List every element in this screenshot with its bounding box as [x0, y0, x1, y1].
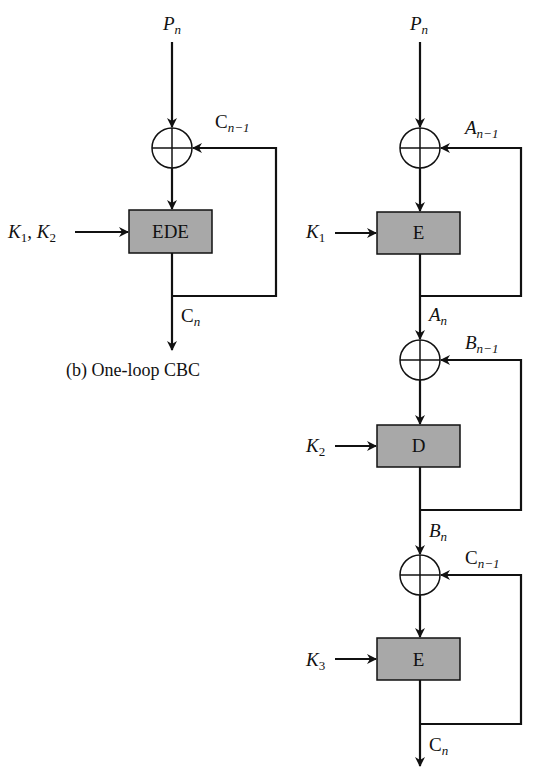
input-label: Pn [163, 14, 181, 36]
label-sub: 3 [319, 658, 326, 673]
label-base: B [465, 332, 477, 353]
label-base: C [465, 547, 478, 568]
label-base: K [8, 221, 21, 242]
label-sub: n [194, 314, 201, 329]
output-label: Bn [429, 521, 447, 543]
diagram-canvas [0, 0, 543, 783]
key-label: K1 [306, 222, 325, 244]
separator: , [27, 221, 37, 242]
xor-icon [400, 555, 440, 595]
left-diagram [75, 42, 276, 350]
label-base: K [306, 649, 319, 670]
label-base: K [306, 221, 319, 242]
label-sub: n [441, 313, 448, 328]
label-sub: n [442, 743, 449, 758]
label-sub: 1 [319, 230, 326, 245]
block-label: E [377, 650, 460, 669]
label-base: C [215, 111, 228, 132]
label-sub: n [441, 529, 448, 544]
feedback-label: Bn−1 [465, 333, 498, 355]
label-sub: n [175, 22, 182, 37]
label-base: P [410, 13, 422, 34]
feedback-label: Cn−1 [465, 548, 499, 570]
feedback-label: An−1 [465, 118, 498, 140]
key-label: K3 [306, 650, 325, 672]
label-sub: n [422, 22, 429, 37]
xor-icon [152, 128, 192, 168]
label-sub: 2 [49, 230, 56, 245]
xor-icon [400, 340, 440, 380]
block-label: E [377, 223, 460, 242]
label-base: P [163, 13, 175, 34]
label-sub: n−1 [477, 341, 499, 356]
label-base: A [465, 117, 477, 138]
output-label: Cn [181, 306, 200, 328]
label-base: A [429, 304, 441, 325]
output-label: Cn [429, 735, 448, 757]
label-sub: n−1 [477, 126, 499, 141]
input-label: Pn [410, 14, 428, 36]
label-base: B [429, 520, 441, 541]
label-base: K [306, 435, 319, 456]
feedback-label: Cn−1 [215, 112, 249, 134]
label-base: C [181, 305, 194, 326]
key-label: K1, K2 [8, 222, 56, 244]
label-base: K [37, 221, 50, 242]
caption: (b) One-loop CBC [66, 360, 200, 381]
block-label: EDE [129, 222, 212, 241]
output-label: An [429, 305, 447, 327]
label-sub: n−1 [228, 120, 250, 135]
label-sub: n−1 [478, 556, 500, 571]
label-base: C [429, 734, 442, 755]
xor-icon [400, 128, 440, 168]
block-label: D [377, 436, 460, 455]
key-label: K2 [306, 436, 325, 458]
label-sub: 2 [319, 444, 326, 459]
